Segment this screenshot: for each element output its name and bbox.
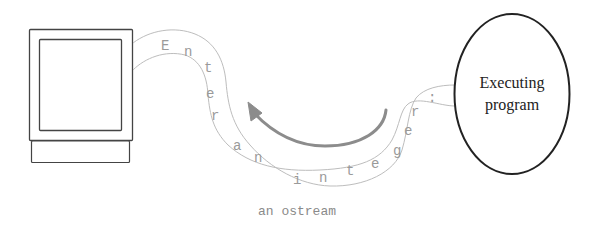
- ostream-diagram: E n t e r a n i n t e g e r : Executing …: [0, 0, 599, 230]
- stream-outer-line: [133, 30, 455, 186]
- flow-arrow-icon: [248, 102, 386, 146]
- monitor-screen: [40, 40, 122, 131]
- monitor-icon: [30, 30, 133, 163]
- stream-text: E n t e r a n i n t e g e r :: [161, 38, 436, 188]
- stream-char: e: [371, 156, 379, 172]
- stream-char: g: [393, 143, 401, 159]
- program-label-line1: Executing: [480, 74, 545, 92]
- stream-char: n: [319, 170, 327, 186]
- stream-char: r: [211, 108, 219, 124]
- stream-char: e: [404, 123, 412, 139]
- stream-char: t: [346, 163, 354, 179]
- stream-char: e: [206, 86, 214, 102]
- program-ellipse: [455, 14, 570, 174]
- monitor-base: [32, 141, 130, 163]
- program-label-line2: program: [485, 96, 540, 114]
- stream-char: t: [204, 60, 212, 76]
- stream-caption: an ostream: [258, 204, 336, 219]
- flow-arrow-curve: [254, 110, 386, 146]
- stream-char: E: [161, 38, 169, 54]
- stream-char: n: [254, 150, 262, 166]
- executing-program-node: Executing program: [455, 14, 570, 174]
- stream-char: :: [428, 90, 436, 106]
- stream-char: n: [184, 44, 192, 60]
- stream-char: a: [233, 138, 241, 154]
- stream-tube: [133, 30, 455, 186]
- stream-char: i: [293, 172, 301, 188]
- stream-char: r: [411, 104, 419, 120]
- stream-inner-line: [133, 53, 455, 170]
